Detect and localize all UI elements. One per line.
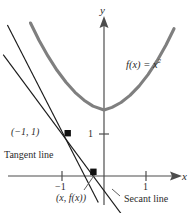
- graph-canvas: [0, 0, 192, 213]
- moving-point-label: (x, f(x)): [56, 193, 86, 203]
- moving-point-marker: [90, 169, 96, 175]
- x-tick-label-minus1: −1: [55, 182, 66, 192]
- function-label-arg: (x) = x: [129, 59, 158, 70]
- tangent-line-label: Tangent line: [4, 150, 54, 160]
- tangency-point-label: (−1, 1): [11, 127, 39, 137]
- secant-label-leader: [112, 189, 120, 196]
- function-label: f(x) = x2: [126, 58, 161, 70]
- y-axis-label: y: [100, 5, 105, 16]
- x-tick-label-1: 1: [143, 182, 148, 192]
- secant-line-label: Secant line: [124, 194, 168, 204]
- x-axis-label: x: [182, 171, 187, 182]
- function-label-exponent: 2: [158, 57, 162, 65]
- tangency-point-marker: [65, 130, 71, 136]
- math-figure-parabola-tangent-secant: y x 1 −1 1 f(x) = x2 (−1, 1) (x, f(x)) T…: [0, 0, 192, 213]
- y-tick-label-1: 1: [88, 129, 93, 139]
